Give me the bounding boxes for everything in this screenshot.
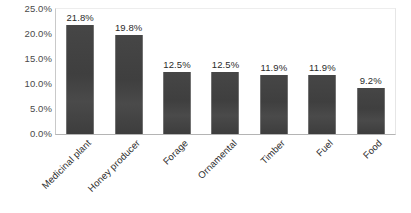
bar[interactable] <box>164 72 191 135</box>
bars-group: 21.8%19.8%12.5%12.5%11.9%11.9%9.2% <box>56 9 395 134</box>
bar-value-label: 12.5% <box>163 60 190 70</box>
bar-slot: 11.9% <box>250 9 298 134</box>
bar-slot: 12.5% <box>201 9 249 134</box>
bar[interactable] <box>357 88 384 134</box>
y-axis-tick-label: 25.0% <box>4 4 52 14</box>
bar-slot: 12.5% <box>153 9 201 134</box>
bar[interactable] <box>67 25 94 134</box>
y-axis-tick-label: 15.0% <box>4 54 52 64</box>
bar-value-label: 21.8% <box>66 13 93 23</box>
bar-slot: 11.9% <box>298 9 346 134</box>
x-axis-category-label: Fuel <box>315 138 335 158</box>
x-axis-category-label: Timber <box>259 138 287 166</box>
y-axis-tick-label: 10.0% <box>4 79 52 89</box>
y-axis-tick-label: 0.0% <box>4 129 52 139</box>
bar-value-label: 12.5% <box>212 60 239 70</box>
bar[interactable] <box>212 72 239 135</box>
y-axis-tick-label: 20.0% <box>4 29 52 39</box>
x-axis-category-label: Forage <box>161 138 190 167</box>
bar-chart: 0.0%5.0%10.0%15.0%20.0%25.0% 21.8%19.8%1… <box>0 0 411 213</box>
bar-value-label: 11.9% <box>261 63 288 73</box>
bar[interactable] <box>115 35 142 134</box>
bar[interactable] <box>309 75 336 135</box>
bar-value-label: 11.9% <box>309 63 336 73</box>
x-axis-category-label: Food <box>361 138 384 161</box>
y-axis-tick-label: 5.0% <box>4 104 52 114</box>
bar-value-label: 9.2% <box>360 76 382 86</box>
bar-slot: 21.8% <box>56 9 104 134</box>
bar-value-label: 19.8% <box>115 23 142 33</box>
x-axis-category-label: Honey producer <box>86 138 142 194</box>
bar[interactable] <box>260 75 287 135</box>
bar-slot: 19.8% <box>104 9 152 134</box>
x-axis-category-label: Ornamental <box>196 138 239 181</box>
x-axis-category-labels: Medicinal plantHoney producerForageOrnam… <box>56 136 395 213</box>
bar-slot: 9.2% <box>347 9 395 134</box>
